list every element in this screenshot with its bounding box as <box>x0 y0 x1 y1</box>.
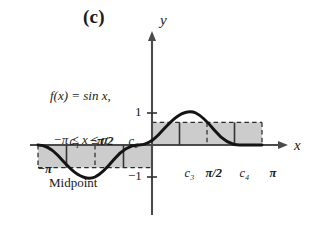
tick-label-half-pi: π/2 <box>193 152 222 194</box>
tick-label-neg-pi-text: −π <box>38 162 52 176</box>
figure-panel-c: (c) y x f(x) = sin x, −π ≤ x ≤ π Midpoin… <box>0 0 313 229</box>
tick-label-neg-half-pi-text: −π/2 <box>90 134 114 148</box>
tick-label-pi: π <box>257 152 276 194</box>
tick-label-pi-text: π <box>270 166 277 180</box>
panel-letter: (c) <box>83 6 105 27</box>
tick-label-negative-one: −1 <box>128 169 142 184</box>
caption-line-rule: Midpoint <box>49 176 111 191</box>
tick-label-c4-text: c₄ <box>240 166 250 180</box>
x-axis-label: x <box>294 137 301 154</box>
tick-label-c2-text: c₂ <box>129 134 139 148</box>
tick-label-neg-pi: −π <box>25 148 52 190</box>
y-axis-label: y <box>160 12 167 29</box>
tick-label-c2: c₂ <box>116 120 138 162</box>
tick-label-c3: c₃ <box>172 152 194 194</box>
figure-plot <box>0 0 313 229</box>
tick-label-positive-one: 1 <box>135 105 142 120</box>
tick-label-neg-half-pi: −π/2 <box>77 120 114 162</box>
y-axis-arrowhead <box>148 31 156 41</box>
tick-label-half-pi-text: π/2 <box>206 166 223 180</box>
caption-line-function: f(x) = sin x, <box>50 89 111 104</box>
x-axis-arrowhead <box>278 141 288 149</box>
tick-label-c4: c₄ <box>227 152 249 194</box>
